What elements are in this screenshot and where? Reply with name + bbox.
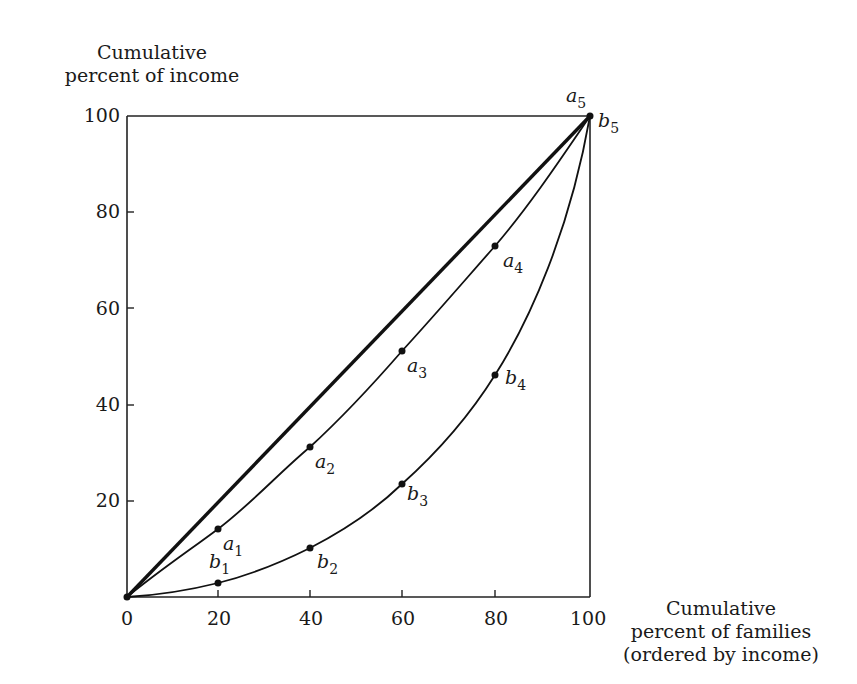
label-b4: b4 bbox=[505, 366, 526, 393]
lorenz-chart: a1 a2 a3 a4 a5 b1 b2 b3 b4 b5 bbox=[0, 0, 857, 684]
label-b2: b2 bbox=[317, 550, 338, 577]
label-b5: b5 bbox=[598, 109, 619, 136]
label-b3: b3 bbox=[407, 482, 428, 509]
label-b1: b1 bbox=[209, 550, 230, 577]
label-a2: a2 bbox=[315, 450, 335, 477]
equality-line bbox=[127, 116, 590, 597]
label-a3: a3 bbox=[407, 354, 427, 381]
label-a4: a4 bbox=[503, 249, 523, 276]
label-a5: a5 bbox=[566, 84, 586, 111]
label-a1: a1 bbox=[223, 532, 243, 559]
